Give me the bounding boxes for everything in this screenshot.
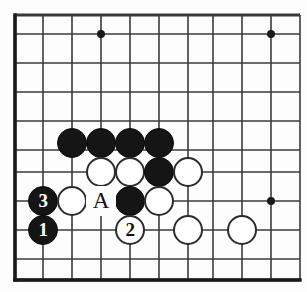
go-diagram: 312 A (0, 0, 307, 292)
stone-black-move-3[interactable]: 3 (28, 186, 58, 216)
move-number: 2 (126, 220, 135, 239)
stone-black-move-1[interactable]: 1 (28, 215, 58, 245)
stone-black[interactable] (86, 128, 116, 158)
stone-black[interactable] (144, 157, 174, 187)
star-point (267, 197, 275, 205)
stone-white[interactable] (57, 186, 87, 216)
stone-white-move-2[interactable]: 2 (115, 215, 145, 245)
move-number: 3 (39, 191, 48, 210)
star-point (97, 30, 105, 38)
stone-white[interactable] (173, 157, 203, 187)
stone-white[interactable] (227, 215, 257, 245)
move-number: 1 (39, 220, 48, 239)
point-label-A[interactable]: A (86, 186, 116, 216)
stone-white[interactable] (173, 215, 203, 245)
stone-black[interactable] (115, 186, 145, 216)
stone-white[interactable] (86, 157, 116, 187)
stone-white[interactable] (144, 186, 174, 216)
stone-black[interactable] (57, 128, 87, 158)
star-point (267, 30, 275, 38)
stone-black[interactable] (115, 128, 145, 158)
stone-white[interactable] (115, 157, 145, 187)
stone-black[interactable] (144, 128, 174, 158)
